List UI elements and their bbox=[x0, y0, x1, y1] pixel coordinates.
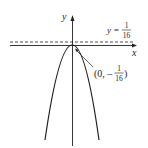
vertex-label-denominator: 16 bbox=[115, 74, 123, 83]
vertex-label-open: (0, – bbox=[94, 68, 113, 80]
vertex-label-close: ) bbox=[124, 68, 127, 80]
x-axis-label: x bbox=[131, 47, 137, 58]
parabola-curve bbox=[45, 45, 99, 140]
directrix-label-lhs: y = bbox=[106, 25, 119, 35]
y-axis-label: y bbox=[61, 11, 67, 22]
directrix-label-denominator: 16 bbox=[123, 31, 131, 40]
vertex-label-numerator: 1 bbox=[117, 64, 121, 73]
directrix-label-numerator: 1 bbox=[125, 21, 129, 30]
parabola-diagram: y x y = 1 16 (0, – 1 16 ) bbox=[0, 0, 148, 148]
y-axis-arrow-icon bbox=[71, 15, 75, 21]
